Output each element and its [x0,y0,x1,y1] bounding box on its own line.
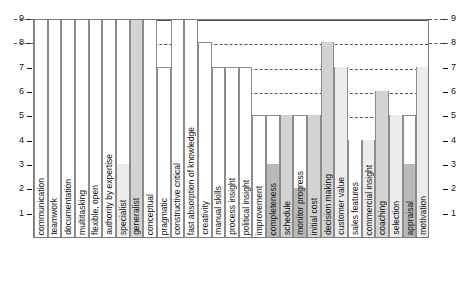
y-tickmark-left-1 [27,214,32,215]
bar-category-label: conceptual [145,194,155,235]
bar-fill [131,19,143,237]
y-tickmark-right-1 [443,214,448,215]
bar-category-label-wrap: conceptual [144,194,156,235]
bar-category-label-wrap: process insight [226,178,238,235]
y-tick-left-3: 3 [12,160,24,169]
y-tickmark-right-2 [443,189,448,190]
gridline-outer-left-8 [14,43,33,44]
bar-fill [390,115,402,237]
bar-fill [349,140,361,237]
bar-fast-absorption-of-knowledge: fast absorption of knowledge [184,19,198,237]
bar-category-label-wrap: authority by expertise [103,154,115,235]
bar-teamwork: teamwork [48,19,62,237]
bar-category-label-wrap: documentation [62,179,74,235]
bar-sales-features: sales features [348,140,362,237]
bar-creativity: creativity [198,42,212,237]
bar-flexible-open: flexible, open [89,19,103,237]
bar-category-label: creativity [200,201,210,235]
y-tick-right-8: 8 [451,38,463,47]
bar-completeness: completeness [266,115,280,237]
bar-fill [376,91,388,237]
y-tickmark-right-3 [443,165,448,166]
bar-decision-making: decision making [321,42,335,237]
bar-motivation: motivation [416,67,429,237]
bar-fill [294,188,306,237]
bar-initial-cost: initial cost [307,115,321,237]
y-tick-right-5: 5 [451,111,463,120]
bar-fill [404,164,416,237]
bar-selection: selection [389,115,403,237]
bar-coaching: coaching [375,91,389,237]
y-tick-right-7: 7 [451,63,463,72]
bar-conceptual: conceptual [143,19,157,237]
y-tick-left-2: 2 [12,184,24,193]
bar-fill [267,164,279,237]
bar-category-label-wrap: teamwork [49,198,61,235]
bar-category-label: improvement [254,186,264,235]
bar-category-label-wrap: constructive critical [172,163,184,235]
y-tickmark-left-2 [27,189,32,190]
bar-political-insight: political insight [239,67,253,237]
y-tickmark-right-5 [443,116,448,117]
bar-appraisal: appraisal [403,115,417,237]
bar-fill [281,115,293,237]
y-tick-right-3: 3 [451,160,463,169]
gridline-outer-right-9 [429,19,448,20]
y-tickmark-left-4 [27,141,32,142]
y-tick-left-7: 7 [12,63,24,72]
y-tick-left-6: 6 [12,87,24,96]
bar-fill [363,140,375,237]
bar-authority-by-expertise: authority by expertise [102,19,116,237]
bar-category-label: communication [36,178,46,235]
bar-category-label: pragmatic [159,198,169,235]
bar-customer-value: customer value [334,67,348,237]
bar-category-label: political insight [241,180,251,235]
bar-category-label-wrap: creativity [199,201,211,235]
y-tick-right-2: 2 [451,184,463,193]
bar-fill [417,67,429,237]
bar-pragmatic: pragmatic [157,67,171,237]
bar-category-label: manual skills [213,186,223,235]
bar-communication: communication [34,19,48,237]
bar-monitor-progress: monitor progress [293,115,307,237]
bar-commercial-insight: commercial insight [362,140,376,237]
y-tick-right-1: 1 [451,209,463,218]
gridline-outer-right-8 [429,43,448,44]
bar-schedule: schedule [280,115,294,237]
bar-manual-skills: manual skills [212,67,226,237]
y-tick-left-5: 5 [12,111,24,120]
gridline-outer-left-9 [14,19,33,20]
bar-category-label-wrap: fast absorption of knowledge [185,127,197,235]
bar-category-label: fast absorption of knowledge [186,127,196,235]
y-tick-right-4: 4 [451,136,463,145]
bar-fill [335,67,347,237]
bar-category-label: process insight [227,178,237,235]
bar-category-label-wrap: multitasking [76,190,88,235]
y-tickmark-left-7 [27,68,32,69]
bar-category-label: teamwork [49,198,59,235]
y-tickmark-right-4 [443,141,448,142]
y-tick-left-1: 1 [12,209,24,218]
y-tick-right-9: 9 [451,14,463,23]
bar-constructive-critical: constructive critical [171,19,185,237]
bar-category-label-wrap: communication [35,178,47,235]
bar-fill [322,42,334,237]
bar-chart: 123456789 123456789 communicationteamwor… [0,0,466,282]
bar-improvement: improvement [252,115,266,237]
plot-area: communicationteamworkdocumentationmultit… [33,19,429,238]
y-tick-right-6: 6 [451,87,463,96]
bar-multitasking: multitasking [75,19,89,237]
bar-category-label: flexible, open [90,185,100,235]
bar-category-label: constructive critical [172,163,182,235]
y-tick-left-4: 4 [12,136,24,145]
bar-category-label-wrap: improvement [253,186,265,235]
y-tickmark-left-5 [27,116,32,117]
bar-fill [117,164,129,237]
bar-category-label-wrap: pragmatic [158,198,170,235]
bar-category-label: authority by expertise [104,154,114,235]
bar-generalist: generalist [130,19,144,237]
bar-documentation: documentation [61,19,75,237]
bar-category-label-wrap: political insight [240,180,252,235]
bar-specialist: specialist [116,19,130,237]
bar-category-label: documentation [63,179,73,235]
